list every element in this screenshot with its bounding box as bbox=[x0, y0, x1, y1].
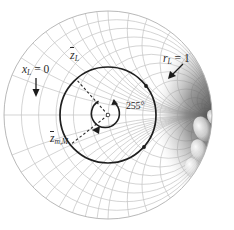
smith-chart-figure: xL = 0 zL rL = 1 255° zm,M bbox=[0, 0, 234, 230]
radius-line-zmm bbox=[70, 115, 108, 145]
label-z-load: zL bbox=[70, 48, 79, 63]
label-z-load-sub: L bbox=[75, 54, 79, 63]
label-x-load-eq: = 0 bbox=[31, 63, 49, 75]
label-x-load: xL = 0 bbox=[22, 63, 49, 77]
marker-lower-crossing bbox=[142, 145, 146, 149]
convergence-shading bbox=[110, 20, 234, 210]
smith-chart-svg bbox=[0, 0, 234, 230]
label-z-match: zm,M bbox=[50, 132, 68, 146]
label-z-match-sub: m,M bbox=[54, 137, 68, 146]
arrow-xl bbox=[33, 78, 40, 97]
label-z-load-var: z bbox=[70, 48, 75, 63]
smith-grid bbox=[0, 0, 234, 230]
label-r-load: rL = 1 bbox=[163, 52, 190, 66]
label-r-load-eq: = 1 bbox=[172, 52, 190, 64]
label-angle: 255° bbox=[126, 100, 144, 111]
marker-rl-crossing bbox=[144, 84, 148, 88]
chart-center-marker bbox=[106, 113, 110, 117]
label-z-match-var: z bbox=[50, 132, 54, 144]
